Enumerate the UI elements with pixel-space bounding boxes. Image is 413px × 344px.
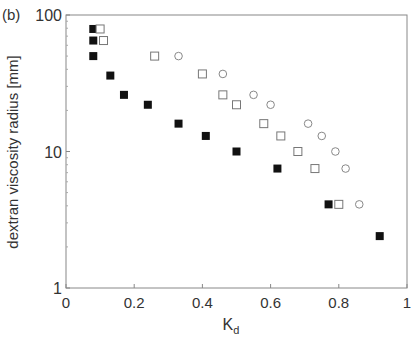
y-tick-label: 10	[44, 144, 62, 161]
open-circle-marker	[304, 120, 312, 128]
open-square-marker	[96, 25, 104, 33]
filled-square-marker	[325, 200, 333, 208]
y-axis: 110100	[35, 7, 70, 297]
filled-square-marker	[175, 120, 183, 128]
filled-square-marker	[202, 132, 210, 140]
filled-square-marker	[144, 101, 152, 109]
filled-square-marker	[233, 148, 241, 156]
y-axis-label: dextran viscosity radius [mm]	[4, 55, 21, 248]
open-square-marker	[335, 200, 343, 208]
open-circle-marker	[219, 70, 227, 78]
x-axis-label: Kd	[223, 316, 240, 336]
filled-square-marker	[89, 52, 97, 60]
open-circle-marker	[267, 101, 275, 109]
open-square-marker	[294, 148, 302, 156]
open-square-marker	[219, 91, 227, 99]
filled-square-marker	[89, 37, 97, 45]
open-circle-marker	[332, 148, 340, 156]
filled-square-marker	[106, 72, 114, 80]
open-square-marker	[198, 70, 206, 78]
open-circle-marker	[342, 165, 350, 173]
panel-label: (b)	[2, 6, 20, 23]
x-tick-label: 0	[62, 294, 70, 311]
open-circle-marker	[175, 52, 183, 60]
open-square-marker	[151, 52, 159, 60]
x-tick-label: 0.6	[260, 294, 281, 311]
open-circle-marker	[355, 201, 363, 209]
filled-square-marker	[273, 165, 281, 173]
open-square-marker	[277, 132, 285, 140]
x-tick-label: 0.4	[192, 294, 213, 311]
x-tick-label: 0.2	[124, 294, 145, 311]
y-tick-label: 100	[35, 7, 62, 24]
x-tick-label: 1	[403, 294, 411, 311]
open-square-marker	[100, 37, 108, 45]
data-points	[89, 25, 383, 240]
filled-square-marker	[376, 232, 384, 240]
open-square-marker	[233, 101, 241, 109]
x-tick-label: 0.8	[328, 294, 349, 311]
open-circle-marker	[250, 91, 258, 99]
filled-square-marker	[120, 91, 128, 99]
open-circle-marker	[318, 132, 326, 140]
open-square-marker	[260, 120, 268, 128]
scatter-chart: (b) 110100 00.20.40.60.81 dextran viscos…	[0, 0, 413, 344]
open-square-marker	[311, 165, 319, 173]
y-tick-label: 1	[53, 280, 62, 297]
